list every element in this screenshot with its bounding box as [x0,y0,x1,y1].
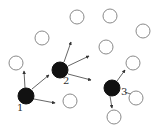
hollow-node-layer [9,9,150,124]
hollow-node [136,24,150,38]
arrow-edge [110,96,112,108]
hollow-node [129,91,143,105]
hollow-node [63,94,77,108]
hollow-node [9,56,23,70]
arrow-edge [24,71,25,88]
hub-label-2: 2 [63,75,69,86]
hub-node-3 [104,80,120,96]
hollow-node [126,56,140,70]
arrow-edge [34,99,55,103]
hub-label-1: 1 [17,102,23,113]
arrow-edge [68,74,91,80]
arrow-edge [32,75,49,89]
arrow-edge [64,42,71,62]
hollow-node [107,110,121,124]
hollow-node [99,40,113,54]
hollow-node [70,10,84,24]
arrow-edge [68,56,89,66]
edge-layer [24,42,133,108]
node-diagram: 123 [0,0,164,132]
hub-label-3: 3 [121,86,127,97]
hollow-node [103,9,117,23]
hollow-node [35,31,49,45]
arrow-edge [117,70,125,81]
